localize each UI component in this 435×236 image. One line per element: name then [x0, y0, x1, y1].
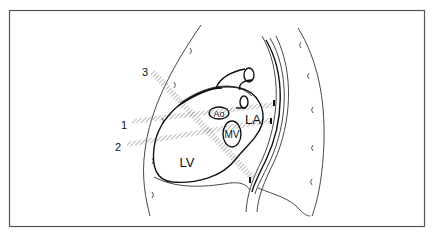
rib-mark: [190, 48, 192, 54]
beam-1-label: 1: [121, 119, 127, 131]
rib-mark: [152, 192, 154, 198]
lv-label: LV: [180, 155, 195, 170]
rib-mark: [312, 107, 314, 113]
diaphragm: [258, 188, 310, 216]
posterior-ribs: [300, 42, 314, 185]
beam-3-label: 3: [142, 66, 148, 78]
probe-tip-middle: [270, 118, 272, 124]
pericardium-lower: [154, 177, 250, 190]
rib-mark: [312, 145, 314, 151]
rib-mark: [174, 82, 176, 88]
la-label: LA: [245, 112, 261, 127]
tee-diagram: Ao MV LA LV 3 1 2: [0, 0, 435, 236]
probe-tip-upper: [273, 100, 275, 106]
probe-tip-lower: [249, 177, 251, 183]
rib-mark: [308, 73, 310, 79]
rib-mark: [300, 42, 302, 48]
ao-label: Ao: [213, 109, 224, 119]
posterior-chest-wall: [298, 28, 324, 216]
rib-mark: [311, 179, 313, 185]
mv-label: MV: [225, 129, 240, 140]
beam-2-label: 2: [115, 141, 121, 153]
